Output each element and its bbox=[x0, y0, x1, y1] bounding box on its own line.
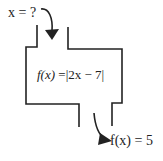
function-formula: f(x) =|2x − 7| bbox=[37, 67, 104, 83]
output-arrow-icon bbox=[94, 113, 105, 139]
function-equals: = bbox=[55, 67, 66, 82]
input-label: x = ? bbox=[8, 5, 36, 21]
function-expression: |2x − 7| bbox=[66, 67, 105, 82]
output-label: f(x) = 5 bbox=[110, 133, 153, 149]
input-arrowhead-icon bbox=[45, 29, 59, 40]
input-arrow-icon bbox=[41, 9, 52, 31]
function-name: f(x) bbox=[37, 67, 55, 82]
